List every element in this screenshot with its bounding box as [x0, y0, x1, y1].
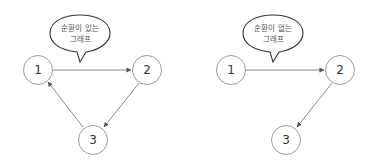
node-label: 3 [282, 133, 290, 147]
cyclic-graph: 순환이 있는 그래프 1 2 3 [24, 15, 162, 155]
node-2: 2 [326, 56, 355, 85]
bubble-text-line1: 순환이 있는 [61, 23, 98, 33]
node-3: 3 [272, 126, 301, 155]
node-label: 1 [34, 63, 42, 77]
node-label: 2 [336, 63, 344, 77]
node-label: 1 [227, 63, 235, 77]
node-1: 1 [217, 56, 246, 85]
speech-bubble: 순환이 없는 그래프 [243, 15, 303, 62]
acyclic-graph: 순환이 없는 그래프 1 2 3 [217, 15, 355, 155]
node-label: 3 [89, 133, 97, 147]
bubble-text-line1: 순환이 없는 [254, 23, 291, 33]
bubble-text-line2: 그래프 [70, 35, 91, 44]
node-3: 3 [79, 126, 108, 155]
speech-bubble: 순환이 있는 그래프 [50, 15, 110, 62]
edge-2-to-3 [104, 83, 139, 127]
node-2: 2 [133, 56, 162, 85]
node-label: 2 [143, 63, 151, 77]
edge-2-to-3 [297, 83, 332, 127]
node-1: 1 [24, 56, 53, 85]
bubble-text-line2: 그래프 [263, 35, 284, 44]
edge-3-to-1 [48, 82, 83, 127]
graph-diagram-canvas: 순환이 있는 그래프 1 2 3 순환이 없는 그래프 1 [0, 0, 372, 162]
